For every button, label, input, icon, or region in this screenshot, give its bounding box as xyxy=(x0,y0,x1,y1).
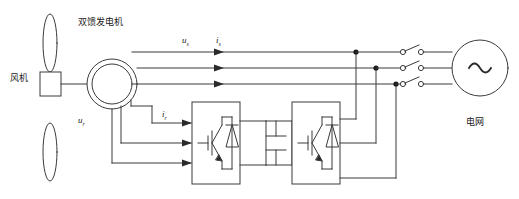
generator-label: 双馈发电机 xyxy=(78,18,123,27)
rotor-current-label: ir xyxy=(162,110,167,121)
schematic-canvas xyxy=(0,0,519,199)
grid-label: 电网 xyxy=(466,118,484,127)
circuit-breaker-phase-a xyxy=(400,45,452,55)
rotor-voltage-label: ur xyxy=(78,116,85,127)
grid-source-graphic xyxy=(452,40,508,96)
rotor-lines xyxy=(112,100,191,163)
stator-voltage-label: us xyxy=(182,36,189,47)
wind-turbine-label: 风机 xyxy=(10,74,28,83)
rotor-arrows xyxy=(182,119,192,166)
circuit-breaker-phase-b xyxy=(400,61,452,71)
stator-arrows xyxy=(214,48,224,87)
circuit-breaker-phase-c xyxy=(400,77,452,87)
wind-turbine-graphic xyxy=(40,14,61,181)
dc-link-capacitor-symbol xyxy=(266,136,286,150)
gsc-ac-lines xyxy=(340,52,396,178)
generator-graphic xyxy=(87,59,137,109)
dfig-system-diagram: 风机 双馈发电机 电网 us is ur ir xyxy=(0,0,519,199)
stator-current-label: is xyxy=(216,36,221,47)
